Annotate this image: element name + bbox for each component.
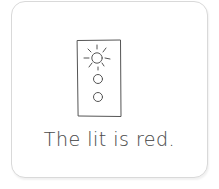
bottom-light-icon [94,93,103,102]
middle-light-icon [94,75,103,84]
traffic-light-illustration [0,0,219,189]
traffic-light-housing [78,40,122,117]
lit-light-icon [84,45,110,70]
caption-text: The lit is red. [0,128,219,150]
